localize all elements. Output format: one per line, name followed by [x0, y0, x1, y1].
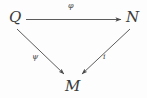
- arrow-label-i: i: [103, 53, 106, 61]
- node-label-m: M: [65, 79, 80, 94]
- node-label-q: Q: [9, 10, 21, 25]
- arrow-n-to-m: [82, 29, 130, 74]
- arrow-label-psi: ψ: [32, 53, 38, 61]
- commutative-diagram: Q N M φ ψ i: [0, 0, 147, 98]
- arrow-label-phi: φ: [68, 2, 74, 10]
- arrow-q-to-m: [17, 29, 64, 74]
- node-label-n: N: [126, 10, 139, 25]
